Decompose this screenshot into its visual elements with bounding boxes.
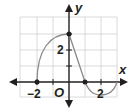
- point-0-3: [67, 32, 72, 37]
- arrow-down-icon: [65, 100, 73, 108]
- origin-label: O: [54, 87, 64, 99]
- tick-label-x-neg2: −2: [27, 88, 41, 100]
- function-curve: [37, 34, 117, 95]
- point-neg2-0: [35, 80, 40, 85]
- tick-label-x-2: 2: [97, 88, 104, 100]
- x-axis-label: x: [119, 64, 126, 76]
- function-graph: [0, 0, 132, 110]
- arrow-up-icon: [65, 4, 73, 12]
- tick-label-y-2: 2: [57, 44, 64, 56]
- arrow-right-icon: [120, 78, 128, 86]
- point-1-0: [83, 80, 88, 85]
- arrow-left-icon: [9, 78, 17, 86]
- marked-points: [35, 32, 88, 85]
- y-axis-label: y: [75, 2, 82, 14]
